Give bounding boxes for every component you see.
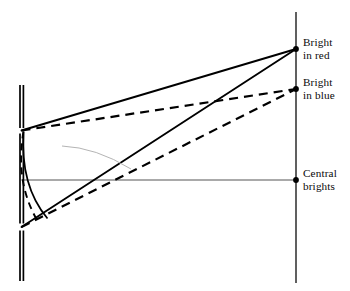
- central-brights-dot: [293, 177, 299, 183]
- central-brights-label-line1: Central: [303, 167, 337, 179]
- central-brights-label: Central brights: [303, 167, 340, 192]
- red-path-difference-arc: [23, 132, 47, 219]
- bright-in-blue-label: Bright in blue: [303, 76, 335, 101]
- bright-in-red-label-line1: Bright: [303, 36, 333, 48]
- bright-in-blue-dot: [293, 86, 299, 92]
- optics-diagram-canvas: Bright in red Bright in blue Central bri…: [0, 0, 350, 291]
- optics-diagram: Bright in red Bright in blue Central bri…: [0, 0, 350, 291]
- red-ray-from-upper-slit: [22, 49, 297, 131]
- faint-wavefront-arc: [62, 146, 131, 169]
- bright-in-red-label-line2: in red: [303, 49, 330, 61]
- red-ray-group: [22, 49, 297, 227]
- bright-in-red-label: Bright in red: [303, 36, 335, 61]
- central-brights-label-line2: brights: [303, 180, 335, 192]
- red-ray-from-lower-slit: [22, 49, 297, 227]
- bright-in-blue-label-line2: in blue: [303, 89, 335, 101]
- bright-in-blue-label-line1: Bright: [303, 76, 333, 88]
- blue-ray-group: [22, 89, 297, 227]
- bright-in-red-dot: [293, 46, 299, 52]
